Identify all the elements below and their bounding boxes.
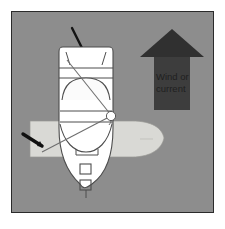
wind-label-line2: current [156, 83, 186, 94]
wind-label-line1: Wind or [156, 71, 189, 82]
fender-ball [106, 111, 115, 120]
docking-scene: Wind or current [12, 12, 213, 212]
illustration-frame: Wind or current [11, 11, 214, 213]
